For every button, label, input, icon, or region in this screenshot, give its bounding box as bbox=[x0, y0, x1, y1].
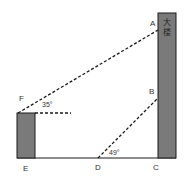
angle-label-49: 49° bbox=[109, 149, 120, 156]
point-label-c: C bbox=[153, 163, 159, 172]
point-label-f: F bbox=[19, 94, 24, 103]
sightline-f-to-a bbox=[18, 30, 158, 113]
sightline-d-to-b bbox=[98, 98, 158, 158]
building-label-char-1: 大 bbox=[163, 17, 171, 27]
building-label-char-2: 楼 bbox=[163, 27, 171, 37]
point-label-d: D bbox=[95, 163, 101, 172]
geometry-diagram: 大 楼 A B C D E F 35° 49° bbox=[0, 0, 188, 185]
small-building bbox=[17, 113, 35, 158]
angle-label-35: 35° bbox=[42, 101, 53, 108]
point-label-a: A bbox=[150, 19, 156, 28]
point-label-b: B bbox=[149, 87, 154, 96]
point-label-e: E bbox=[23, 164, 28, 173]
